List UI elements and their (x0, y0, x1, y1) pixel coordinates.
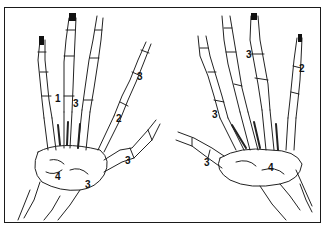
label-left-3d: 3 (85, 180, 91, 190)
label-right-3b: 3 (212, 110, 218, 120)
label-right-2: 2 (299, 64, 305, 74)
hands-illustration (0, 0, 330, 232)
label-left-2: 2 (116, 114, 122, 124)
label-left-3b: 3 (137, 72, 143, 82)
label-right-3a: 3 (246, 50, 252, 60)
label-right-4: 4 (268, 163, 274, 173)
right-hand-drawing (176, 13, 312, 220)
label-left-1: 1 (55, 94, 61, 104)
label-left-4: 4 (55, 172, 61, 182)
label-right-3c: 3 (204, 158, 210, 168)
label-left-3c: 3 (125, 156, 131, 166)
hand-skeleton-figure: 1 3 2 3 3 4 3 3 2 3 3 4 (0, 0, 330, 232)
label-left-3a: 3 (73, 99, 79, 109)
